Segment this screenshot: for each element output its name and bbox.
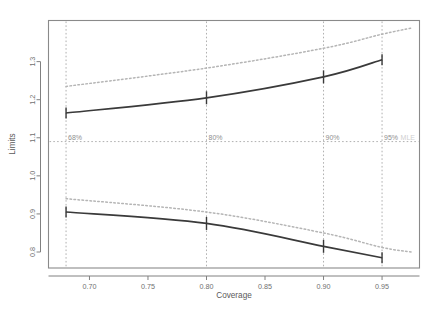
y-tick-label: 1.1 (28, 133, 37, 143)
y-tick-label: 0.9 (28, 209, 37, 219)
y-tick-label: 1.2 (28, 95, 37, 105)
y-tick-label: 1.3 (28, 57, 37, 67)
annotation-68pct: 68% (68, 134, 82, 141)
chart-background (0, 0, 433, 316)
annotation-90pct: 90% (326, 134, 340, 141)
annotation-mle: MLE (401, 134, 416, 141)
x-tick-label: 0.75 (141, 282, 155, 291)
x-tick-label: 0.80 (199, 282, 213, 291)
x-tick-label: 0.90 (317, 282, 331, 291)
y-tick-label: 0.8 (28, 247, 37, 257)
x-tick-label: 0.95 (375, 282, 389, 291)
x-tick-label: 0.85 (258, 282, 272, 291)
limits-vs-coverage-chart: 0.700.750.800.850.900.95 0.80.91.01.11.2… (0, 0, 433, 316)
y-axis-title: Limits (8, 133, 17, 154)
annotation-95pct: 95% (384, 134, 398, 141)
x-tick-label: 0.70 (82, 282, 96, 291)
x-axis-title: Coverage (216, 291, 252, 300)
chart-root: 0.700.750.800.850.900.95 0.80.91.01.11.2… (0, 0, 433, 316)
y-tick-label: 1.0 (28, 171, 37, 181)
annotation-80pct: 80% (208, 134, 222, 141)
